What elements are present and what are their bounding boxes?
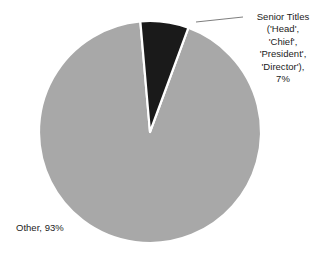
pie-label-senior-titles: Senior Titles ('Head', 'Chief', 'Preside… (240, 11, 326, 85)
pie-chart-figure: Senior Titles ('Head', 'Chief', 'Preside… (0, 0, 328, 262)
pie-label-other: Other, 93% (16, 222, 64, 234)
leader-line-senior-titles (196, 17, 243, 22)
